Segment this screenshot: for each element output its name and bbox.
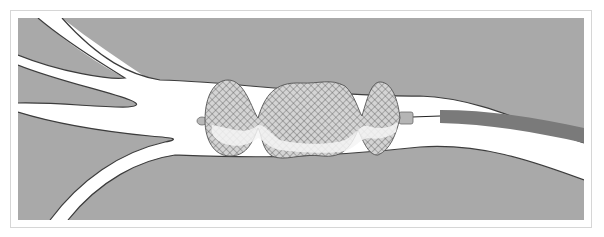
- stent-vessel-illustration: [0, 0, 604, 237]
- mesh-device: [205, 80, 400, 158]
- diagram-frame: [0, 0, 604, 237]
- distal-connector: [399, 112, 413, 124]
